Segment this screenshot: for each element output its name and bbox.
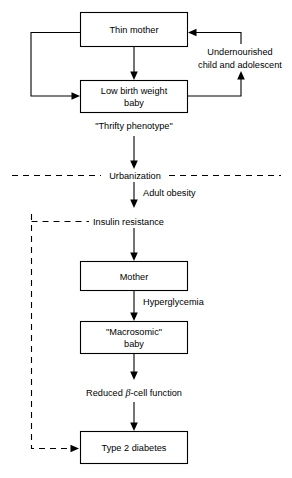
edge-label-reduced-beta-cell-function: Reduced β-cell function bbox=[86, 387, 182, 398]
node-label-thin-mother: Thin mother bbox=[109, 25, 158, 35]
node-label-low-birth-weight-baby-line2: baby bbox=[124, 98, 144, 108]
edge-label-thrifty-phenotype: "Thrifty phenotype" bbox=[95, 121, 173, 131]
flowchart-diagram: Thin mother Low birth weight baby Mother… bbox=[0, 0, 292, 478]
arrowhead-left-to-thin-mother bbox=[188, 29, 197, 37]
arrowhead-down-to-macrosomic bbox=[130, 313, 138, 322]
node-label-macrosomic-baby-line2: baby bbox=[124, 339, 144, 349]
edge-label-undernourished-line2: child and adolescent bbox=[198, 60, 282, 70]
edge-label-adult-obesity: Adult obesity bbox=[143, 188, 196, 198]
node-label-type-2-diabetes: Type 2 diabetes bbox=[102, 443, 167, 453]
arrowhead-right-to-lbw bbox=[72, 92, 81, 100]
arrowhead-down-to-type-2-diabetes bbox=[130, 423, 138, 432]
beta-label-suffix: -cell function bbox=[130, 388, 182, 398]
arrowhead-up-to-undernourished bbox=[237, 71, 245, 80]
edge-insulin-resistance-to-type-2-diabetes bbox=[32, 214, 71, 449]
node-label-macrosomic-baby-line1: "Macrosomic" bbox=[106, 327, 162, 337]
arrowhead-down-to-lbw bbox=[130, 72, 138, 81]
edge-label-insulin-resistance: Insulin resistance bbox=[93, 217, 164, 227]
arrowhead-right-to-type-2-diabetes bbox=[71, 445, 80, 453]
edge-label-undernourished-line1: Undernourished bbox=[207, 47, 272, 57]
arrowhead-down-to-mother bbox=[130, 253, 138, 262]
beta-label-prefix: Reduced bbox=[86, 388, 125, 398]
edge-label-urbanization: Urbanization bbox=[109, 171, 161, 181]
node-label-mother: Mother bbox=[120, 272, 149, 282]
edge-label-hyperglycemia: Hyperglycemia bbox=[143, 297, 205, 307]
edge-undernourished-to-thin-mother bbox=[196, 33, 241, 45]
node-label-low-birth-weight-baby-line1: Low birth weight bbox=[101, 86, 168, 96]
arrowhead-down-to-urbanization bbox=[130, 161, 138, 170]
arrowhead-down-adult-obesity bbox=[130, 200, 138, 209]
arrowhead-down-to-beta-cell bbox=[130, 372, 138, 381]
edge-lbw-to-undernourished bbox=[188, 78, 241, 96]
edge-thin-mother-left-loop-to-lbw bbox=[31, 33, 80, 97]
